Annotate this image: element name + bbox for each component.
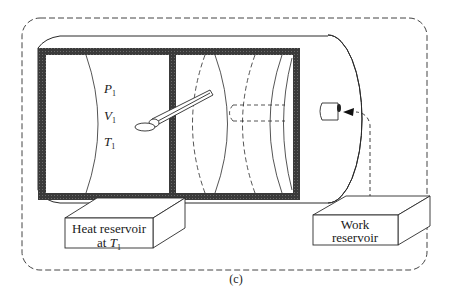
state-label-volume: V1 <box>104 108 116 125</box>
state-label-pressure: P1 <box>103 81 116 98</box>
partition-wall <box>169 48 176 200</box>
figure-caption: (c) <box>229 272 242 286</box>
thermodynamic-system-diagram: Heat reservoir at T1 Work reservoir P1 V… <box>0 0 467 299</box>
left-chamber-curve <box>86 55 98 193</box>
piston-rod <box>230 105 286 121</box>
cylinder-walls <box>38 48 300 200</box>
shaft-coupling <box>320 103 341 120</box>
state-label-temperature: T1 <box>104 134 115 151</box>
heat-reservoir-label-line1: Heat reservoir <box>72 221 147 236</box>
work-reservoir-label-line2: reservoir <box>332 230 379 245</box>
system-boundary-outline <box>22 19 228 101</box>
piston <box>193 55 293 193</box>
cylinder-body <box>38 36 328 203</box>
